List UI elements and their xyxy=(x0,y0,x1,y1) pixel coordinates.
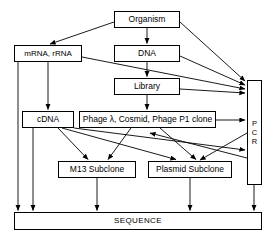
node-pcr-letter-c: C xyxy=(252,128,257,137)
node-pcr-letter-r: R xyxy=(252,137,257,146)
node-library[interactable]: Library xyxy=(114,78,180,95)
edge-cdna-plasmid xyxy=(62,128,176,160)
edge-pcr-phage-return xyxy=(150,133,247,158)
edge-cdna-pcr xyxy=(74,128,245,150)
node-cdna-label: cDNA xyxy=(37,115,59,124)
edge-cdna-m13 xyxy=(58,128,88,160)
edge-organism-mrna xyxy=(50,22,114,44)
node-plasmid-subclone-label: Plasmid Subclone xyxy=(156,165,224,174)
node-dna[interactable]: DNA xyxy=(114,45,180,62)
node-mrna-rrna[interactable]: mRNA, rRNA xyxy=(14,45,82,62)
edge-pcr-plasmid xyxy=(200,133,247,160)
node-sequence-label: SEQUENCE xyxy=(114,217,162,225)
node-phage-cosmid-p1-label: Phage λ, Cosmid, Phage P1 clone xyxy=(83,115,212,124)
edge-organism-pcr xyxy=(180,22,245,81)
node-mrna-rrna-label: mRNA, rRNA xyxy=(24,50,72,58)
node-phage-cosmid-p1[interactable]: Phage λ, Cosmid, Phage P1 clone xyxy=(79,111,216,128)
node-m13-subclone-label: M13 Subclone xyxy=(70,165,124,174)
edge-phage-m13 xyxy=(108,128,131,160)
node-plasmid-subclone[interactable]: Plasmid Subclone xyxy=(148,161,232,178)
node-organism[interactable]: Organism xyxy=(114,11,180,28)
edge-phage-plasmid xyxy=(160,128,196,160)
node-sequence[interactable]: SEQUENCE xyxy=(14,212,262,230)
edge-dna-pcr xyxy=(180,56,245,85)
diagram-canvas: Organism mRNA, rRNA DNA Library cDNA Pha… xyxy=(0,0,278,234)
node-organism-label: Organism xyxy=(129,15,166,24)
node-cdna[interactable]: cDNA xyxy=(22,111,74,128)
node-library-label: Library xyxy=(134,82,160,91)
node-dna-label: DNA xyxy=(138,49,156,58)
edge-library-pcr xyxy=(180,89,245,93)
node-pcr-letter-p: P xyxy=(252,119,257,128)
node-pcr[interactable]: P C R xyxy=(247,80,262,185)
node-m13-subclone[interactable]: M13 Subclone xyxy=(58,161,136,178)
